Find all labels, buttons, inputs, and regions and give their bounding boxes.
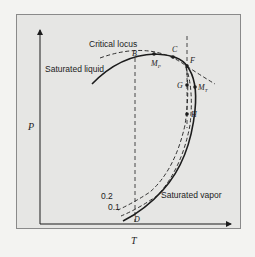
point-label-d: D — [133, 215, 140, 224]
point-c — [171, 55, 175, 59]
quality-label-0.1: 0.1 — [108, 202, 120, 212]
quality-label-0.2: 0.2 — [101, 191, 113, 201]
critical-locus-label: Critical locus — [89, 39, 137, 49]
point-label-f: F — [189, 56, 195, 65]
pt-phase-diagram: P T Critical locus Saturated liquid Satu… — [0, 0, 255, 257]
point-g — [185, 83, 189, 87]
point-label-mp: MP — [150, 59, 161, 69]
point-mp — [152, 52, 156, 56]
saturated-vapor-label: Saturated vapor — [161, 190, 222, 200]
point-f — [185, 64, 189, 68]
x-axis-label: T — [131, 235, 138, 246]
point-mt — [193, 85, 197, 89]
point-label-mt: MT — [197, 83, 209, 93]
saturated-liquid-label: Saturated liquid — [45, 64, 104, 74]
point-label-b: B — [132, 49, 137, 58]
y-axis-label: P — [27, 121, 34, 132]
point-label-h: H — [190, 110, 198, 119]
point-label-c: C — [172, 45, 178, 54]
point-label-g: G — [177, 81, 183, 90]
point-h — [185, 112, 189, 116]
